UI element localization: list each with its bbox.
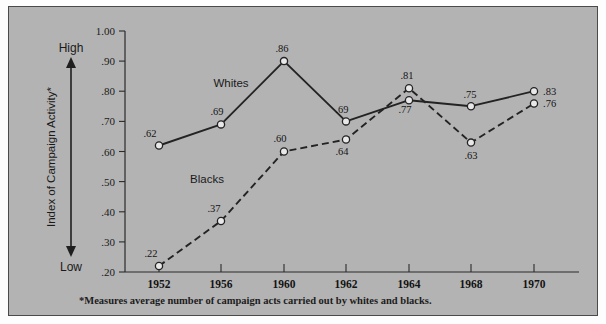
data-label-whites-1956: .69 bbox=[210, 106, 223, 117]
x-tick-label-1960: 1960 bbox=[273, 278, 296, 290]
data-point-marker bbox=[155, 142, 162, 149]
y-tick-label: .70 bbox=[101, 115, 115, 127]
series-whites: .62 .69 .86 .69 .77 .75 .83 Whites bbox=[143, 43, 556, 149]
data-label-whites-1964: .77 bbox=[398, 104, 411, 115]
data-label-blacks-1970: .76 bbox=[543, 98, 556, 109]
y-tick-label: .40 bbox=[101, 206, 115, 218]
data-point-marker bbox=[530, 88, 537, 95]
data-label-whites-1952: .62 bbox=[143, 128, 156, 139]
data-point-marker bbox=[280, 148, 287, 155]
y-tick-label: 1.00 bbox=[96, 25, 116, 37]
figure-footnote: *Measures average number of campaign act… bbox=[79, 295, 432, 306]
x-axis: 1952 1956 1960 1962 1964 1968 1970 bbox=[125, 264, 579, 290]
data-point-marker bbox=[467, 103, 474, 110]
y-axis-low-label: Low bbox=[60, 260, 82, 274]
data-label-whites-1968: .75 bbox=[463, 89, 476, 100]
figure-panel: 1.00 .90 .80 .70 .60 .50 .40 bbox=[9, 7, 597, 315]
data-label-blacks-1962: .64 bbox=[335, 146, 349, 157]
screenshot-root: 1.00 .90 .80 .70 .60 .50 .40 bbox=[0, 0, 606, 324]
x-tick-label-1968: 1968 bbox=[460, 278, 483, 290]
data-point-marker bbox=[280, 58, 287, 65]
line-chart: 1.00 .90 .80 .70 .60 .50 .40 bbox=[9, 7, 597, 315]
y-tick-label: .60 bbox=[101, 146, 115, 158]
data-label-blacks-1968: .63 bbox=[464, 150, 477, 161]
data-label-whites-1962: .69 bbox=[335, 104, 348, 115]
data-point-marker bbox=[217, 217, 224, 224]
y-tick-label: .80 bbox=[101, 85, 115, 97]
data-label-blacks-1964: .81 bbox=[400, 70, 413, 81]
y-axis: 1.00 .90 .80 .70 .60 .50 .40 bbox=[96, 25, 125, 278]
data-label-blacks-1960: .60 bbox=[273, 133, 286, 144]
x-tick-label-1962: 1962 bbox=[335, 278, 358, 290]
data-label-whites-1960: .86 bbox=[275, 43, 288, 54]
data-point-marker bbox=[467, 139, 474, 146]
y-tick-label: .50 bbox=[101, 176, 115, 188]
x-tick-label-1970: 1970 bbox=[523, 278, 546, 290]
y-axis-direction-indicator: High Low bbox=[59, 41, 84, 274]
data-label-blacks-1956: .37 bbox=[207, 203, 220, 214]
data-point-marker bbox=[530, 100, 537, 107]
data-label-whites-1970: .83 bbox=[543, 86, 556, 97]
data-point-marker bbox=[405, 97, 412, 104]
y-tick-group: 1.00 .90 .80 .70 .60 .50 .40 bbox=[96, 25, 125, 278]
arrow-up-icon bbox=[66, 57, 76, 68]
y-tick-label: .30 bbox=[101, 236, 115, 248]
data-point-marker bbox=[405, 85, 412, 92]
series-annotation-whites: Whites bbox=[213, 77, 248, 89]
figure-frame: 1.00 .90 .80 .70 .60 .50 .40 bbox=[8, 6, 598, 316]
data-point-marker bbox=[155, 262, 162, 269]
y-tick-label: .90 bbox=[101, 55, 115, 67]
data-label-blacks-1952: .22 bbox=[144, 248, 157, 259]
data-point-marker bbox=[217, 121, 224, 128]
y-axis-high-label: High bbox=[59, 41, 84, 55]
y-axis-title: Index of Campaign Activity* bbox=[45, 86, 57, 227]
arrow-down-icon bbox=[66, 246, 76, 257]
x-tick-label-1956: 1956 bbox=[210, 278, 233, 290]
data-point-marker bbox=[342, 136, 349, 143]
x-tick-label-1952: 1952 bbox=[148, 278, 171, 290]
x-tick-label-1964: 1964 bbox=[398, 278, 421, 290]
series-annotation-blacks: Blacks bbox=[190, 173, 224, 185]
y-tick-label: .20 bbox=[101, 266, 115, 278]
data-point-marker bbox=[342, 118, 349, 125]
